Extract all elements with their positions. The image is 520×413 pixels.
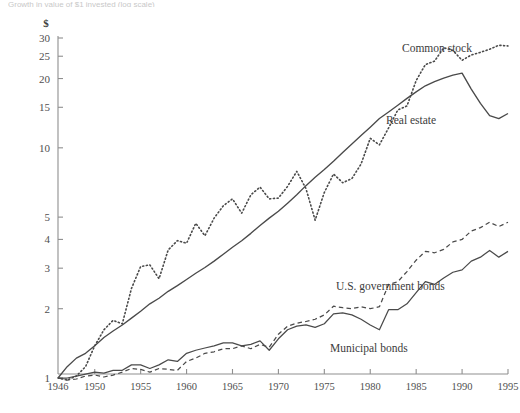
y-tick-label: 3 — [45, 262, 51, 274]
x-axis-ticks: 1946195019551960196519701975198019851990… — [48, 369, 519, 392]
y-tick-label: 30 — [39, 32, 51, 44]
series-line-u-s-government-bonds — [58, 222, 508, 380]
series-label-common-stock: Common stock — [402, 42, 472, 54]
x-tick-label: 1955 — [130, 381, 151, 392]
y-tick-label: 5 — [45, 211, 51, 223]
x-tick-label: 1995 — [498, 381, 519, 392]
x-tick-label: 1965 — [222, 381, 243, 392]
y-tick-label: 25 — [39, 50, 51, 62]
x-tick-label: 1960 — [176, 381, 197, 392]
series-label-us-government-bonds: U.S. government bonds — [336, 280, 445, 293]
x-tick-label: 1950 — [84, 381, 105, 392]
y-tick-label: 10 — [39, 142, 51, 154]
x-tick-label: 1980 — [360, 381, 381, 392]
x-tick-label: 1990 — [452, 381, 473, 392]
series-lines — [58, 45, 508, 380]
y-tick-label: 2 — [45, 303, 51, 315]
series-line-real-estate — [58, 73, 508, 378]
x-tick-label: 1946 — [48, 381, 69, 392]
chart-caption-clipped: Growth in value of $1 invested (log scal… — [8, 0, 428, 7]
x-tick-label: 1985 — [406, 381, 427, 392]
series-label-real-estate: Real estate — [386, 114, 436, 126]
y-axis-unit-label: $ — [43, 17, 49, 29]
x-tick-label: 1970 — [268, 381, 289, 392]
chart-plot-area: 123451015202530 194619501955196019651970… — [0, 0, 520, 413]
x-tick-label: 1975 — [314, 381, 335, 392]
series-line-municipal-bonds — [58, 251, 508, 378]
series-label-municipal-bonds: Municipal bonds — [330, 342, 408, 355]
y-tick-label: 4 — [45, 233, 51, 245]
series-line-common-stock — [58, 45, 508, 380]
investment-growth-chart: Growth in value of $1 invested (log scal… — [0, 0, 520, 413]
y-axis-ticks: 123451015202530 — [39, 32, 63, 384]
y-tick-label: 20 — [39, 73, 51, 85]
y-tick-label: 15 — [39, 101, 51, 113]
